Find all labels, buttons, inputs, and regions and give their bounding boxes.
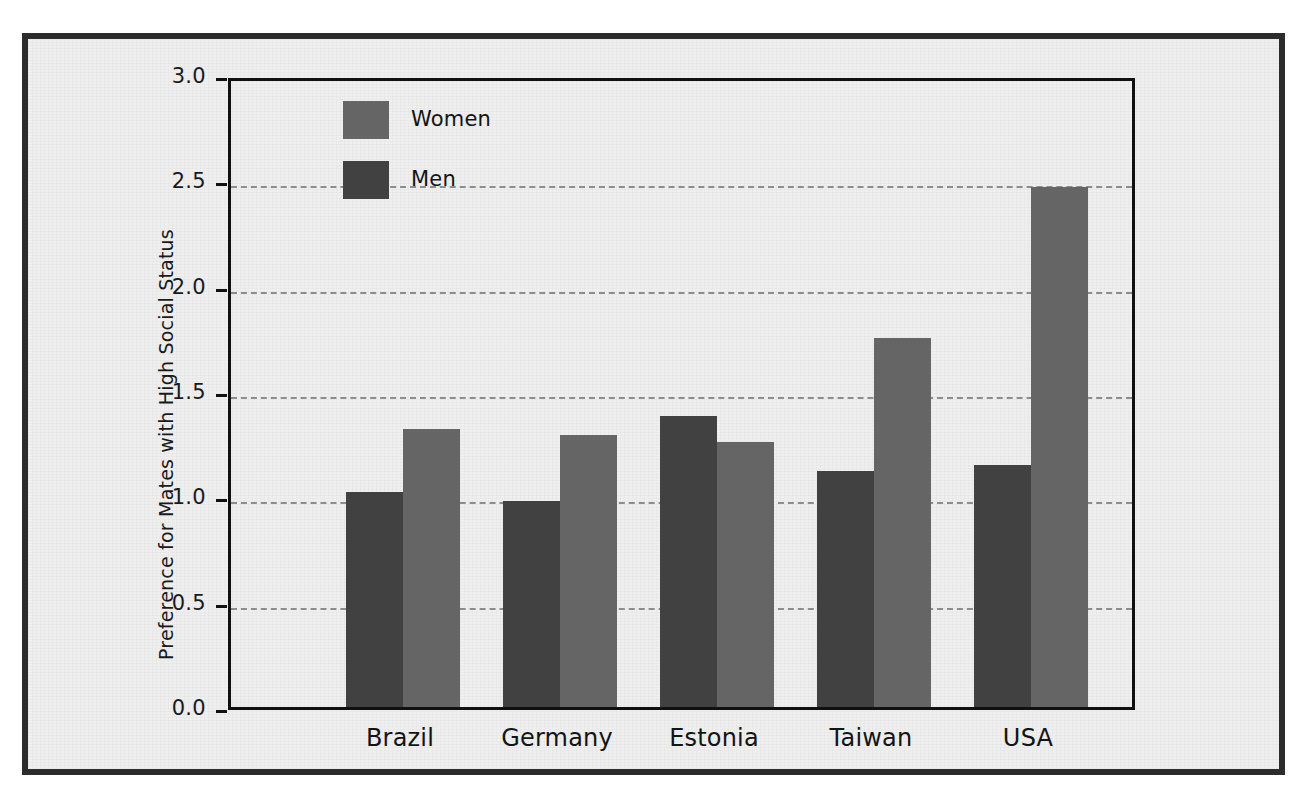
y-tick-label: 2.0 (128, 275, 206, 299)
y-tick-mark (216, 78, 227, 81)
y-tick-mark (216, 394, 227, 397)
y-tick-mark (216, 499, 227, 502)
legend-label-women: Women (411, 107, 491, 131)
plot-area: Women Men (228, 78, 1135, 710)
legend-swatch-women (343, 101, 389, 139)
gridline (231, 292, 1132, 294)
bar-germany-women (560, 435, 617, 707)
y-tick-label: 0.0 (128, 696, 206, 720)
y-tick-label: 3.0 (128, 64, 206, 88)
bar-brazil-women (403, 429, 460, 707)
bar-brazil-men (346, 492, 403, 707)
bar-taiwan-men (817, 471, 874, 707)
bar-usa-women (1031, 187, 1088, 707)
legend-swatch-men (343, 161, 389, 199)
y-tick-mark (216, 605, 227, 608)
y-tick-mark (216, 183, 227, 186)
gridline (231, 397, 1132, 399)
bar-estonia-men (660, 416, 717, 707)
bar-germany-men (503, 501, 560, 707)
bar-estonia-women (717, 442, 774, 707)
bar-taiwan-women (874, 338, 931, 707)
y-tick-mark (216, 710, 227, 713)
x-axis-label-usa: USA (918, 724, 1138, 752)
bar-usa-men (974, 465, 1031, 707)
y-tick-label: 1.0 (128, 485, 206, 509)
y-tick-label: 0.5 (128, 591, 206, 615)
legend-label-men: Men (411, 167, 456, 191)
y-tick-label: 1.5 (128, 380, 206, 404)
figure-canvas: Preference for Mates with High Social St… (0, 0, 1303, 802)
y-tick-label: 2.5 (128, 169, 206, 193)
y-tick-mark (216, 289, 227, 292)
